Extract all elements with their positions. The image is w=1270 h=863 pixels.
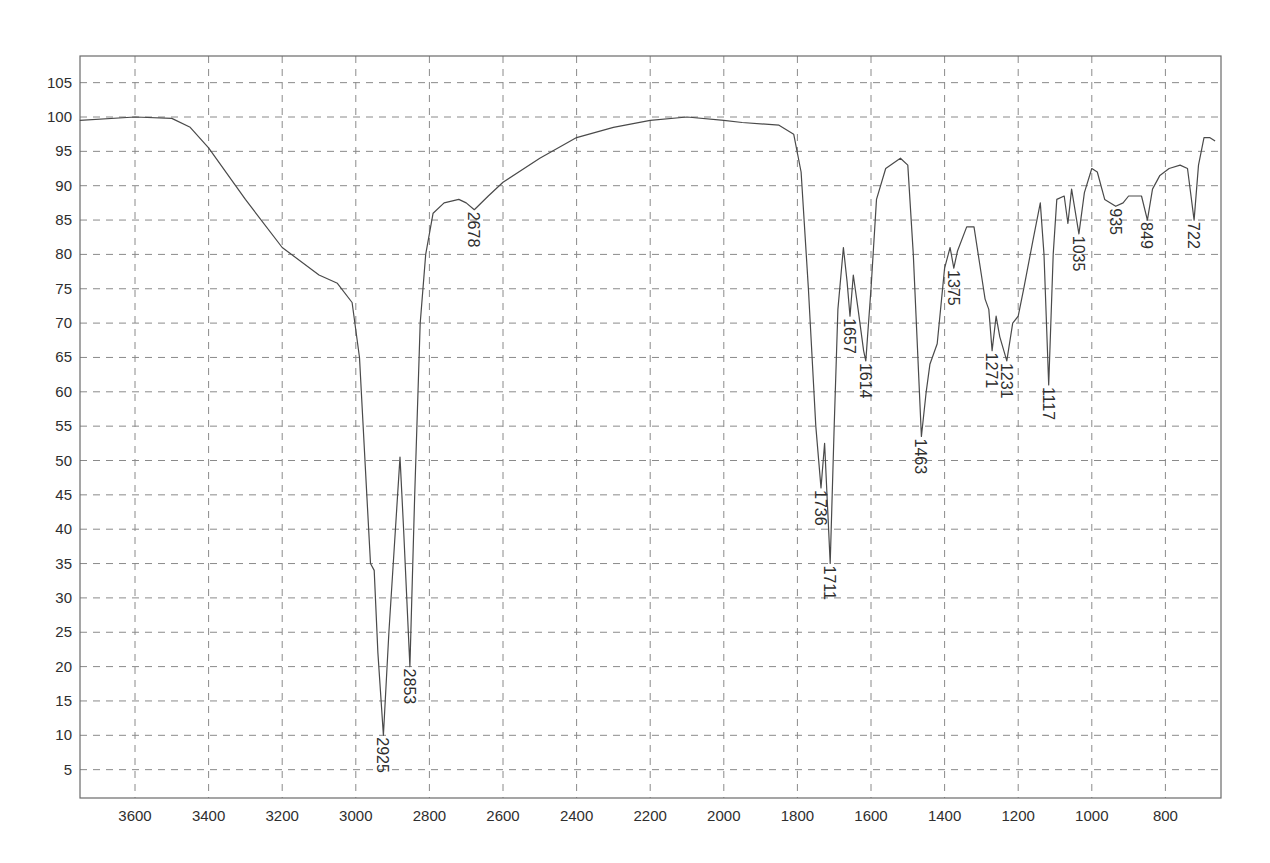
x-tick-label: 1000 [1075, 807, 1108, 824]
y-tick-label: 95 [55, 142, 72, 159]
peak-label: 2925 [374, 737, 391, 773]
y-tick-label: 15 [55, 692, 72, 709]
peak-label: 1117 [1040, 387, 1057, 420]
y-tick-label: 45 [55, 486, 72, 503]
x-tick-label: 1200 [1002, 807, 1035, 824]
y-tick-label: 80 [55, 245, 72, 262]
y-tick-label: 75 [55, 280, 72, 297]
x-tick-label: 3000 [339, 807, 372, 824]
peak-label: 1035 [1070, 236, 1087, 272]
x-axis-tick-labels: 3600340032003000280026002400220020001800… [118, 807, 1178, 824]
y-tick-label: 70 [55, 314, 72, 331]
x-tick-label: 3600 [118, 807, 151, 824]
peak-labels: 2925285326781736171116571614146313751271… [374, 208, 1202, 773]
y-tick-label: 100 [47, 108, 72, 125]
y-tick-label: 60 [55, 383, 72, 400]
y-tick-label: 30 [55, 589, 72, 606]
peak-label: 935 [1107, 208, 1124, 235]
peak-label: 1736 [812, 490, 829, 526]
x-tick-label: 1600 [854, 807, 887, 824]
peak-label: 849 [1138, 222, 1155, 249]
peak-label: 1711 [821, 566, 838, 601]
peak-label: 2678 [465, 212, 482, 248]
peak-label: 722 [1185, 222, 1202, 249]
y-tick-label: 40 [55, 520, 72, 537]
x-tick-label: 2400 [560, 807, 593, 824]
x-tick-label: 3200 [266, 807, 299, 824]
x-tick-label: 3400 [192, 807, 225, 824]
peak-label: 1271 [983, 353, 1000, 389]
x-tick-label: 2200 [634, 807, 667, 824]
x-tick-label: 800 [1153, 807, 1178, 824]
x-tick-label: 1400 [928, 807, 961, 824]
y-tick-label: 35 [55, 555, 72, 572]
y-tick-label: 105 [47, 74, 72, 91]
y-tick-label: 5 [64, 761, 72, 778]
peak-label: 1463 [912, 439, 929, 475]
peak-label: 1375 [945, 270, 962, 306]
peak-label: 1614 [857, 363, 874, 399]
x-tick-label: 1800 [781, 807, 814, 824]
y-axis-tick-labels: 5101520253035404550556065707580859095100… [47, 74, 72, 778]
y-tick-label: 10 [55, 726, 72, 743]
y-tick-label: 50 [55, 452, 72, 469]
y-tick-label: 55 [55, 417, 72, 434]
x-tick-label: 2000 [707, 807, 740, 824]
y-tick-label: 90 [55, 177, 72, 194]
x-tick-label: 2600 [486, 807, 519, 824]
y-tick-label: 20 [55, 658, 72, 675]
peak-label: 1231 [998, 363, 1015, 399]
ir-spectrum-chart: 5101520253035404550556065707580859095100… [0, 0, 1270, 863]
peak-label: 1657 [841, 318, 858, 354]
grid-lines [80, 56, 1221, 798]
y-tick-label: 25 [55, 623, 72, 640]
y-tick-label: 65 [55, 348, 72, 365]
y-tick-label: 85 [55, 211, 72, 228]
peak-label: 2853 [401, 669, 418, 705]
x-tick-label: 2800 [413, 807, 446, 824]
